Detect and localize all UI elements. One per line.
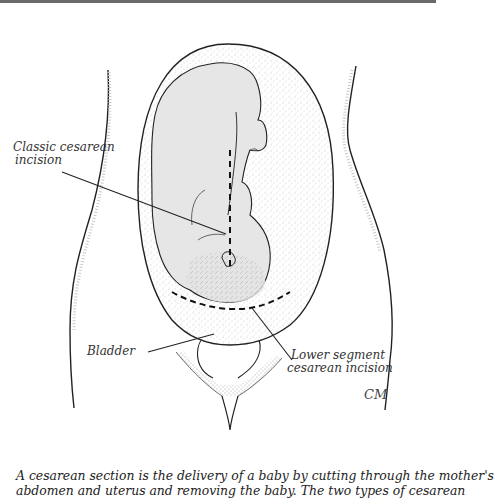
figure-caption: A cesarean section is the delivery of a … — [16, 468, 436, 498]
label-lower-line2: cesarean incision — [287, 362, 393, 375]
label-bladder: Bladder — [87, 345, 135, 358]
label-lower-segment-incision: Lower segment cesarean incision — [287, 349, 393, 375]
label-classic-line2: incision — [13, 154, 115, 167]
cesarean-illustration: Classic cesarean incision Bladder Lower … — [0, 0, 436, 445]
caption-line-2: abdomen and uterus and removing the baby… — [16, 483, 436, 498]
label-classic-cesarean-incision: Classic cesarean incision — [13, 141, 115, 167]
caption-line-1: A cesarean section is the delivery of a … — [16, 468, 436, 483]
artist-signature: CM — [364, 387, 387, 402]
